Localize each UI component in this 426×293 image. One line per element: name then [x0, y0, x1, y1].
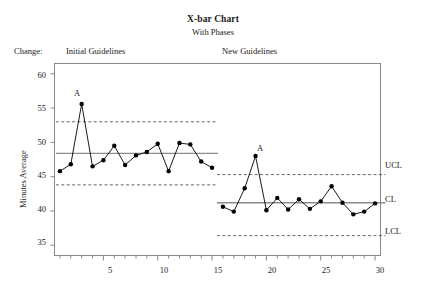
xbar-control-chart: X-bar Chart With Phases Change: Initial … [0, 0, 426, 293]
data-point-phase-1-3 [79, 102, 83, 106]
data-point-phase-2-27 [340, 201, 344, 205]
data-point-phase-1-15 [210, 166, 214, 170]
plot-area [0, 0, 426, 293]
data-point-phase-2-25 [319, 199, 323, 203]
data-point-phase-2-18 [242, 186, 246, 190]
data-point-phase-1-1 [58, 169, 62, 173]
data-point-phase-1-10 [156, 142, 160, 146]
data-point-phase-2-20 [264, 208, 268, 212]
data-point-phase-1-4 [90, 164, 94, 168]
data-point-phase-1-2 [69, 162, 73, 166]
data-point-phase-2-21 [275, 196, 279, 200]
series-line-phase-1 [60, 104, 212, 171]
data-point-phase-1-6 [112, 144, 116, 148]
control-limit-lines [56, 122, 386, 236]
data-point-phase-2-26 [329, 184, 333, 188]
data-point-phase-2-30 [373, 201, 377, 205]
data-series [58, 102, 378, 217]
data-point-phase-1-5 [101, 158, 105, 162]
data-point-phase-1-11 [166, 169, 170, 173]
data-point-phase-2-22 [286, 207, 290, 211]
data-point-phase-2-29 [362, 209, 366, 213]
data-point-phase-1-14 [199, 159, 203, 163]
data-point-phase-2-23 [297, 197, 301, 201]
data-point-phase-2-17 [232, 209, 236, 213]
data-point-phase-2-16 [221, 205, 225, 209]
data-point-phase-2-28 [351, 212, 355, 216]
data-point-phase-1-12 [177, 141, 181, 145]
data-point-phase-1-8 [134, 153, 138, 157]
data-point-phase-2-24 [308, 207, 312, 211]
data-point-phase-1-9 [145, 150, 149, 154]
data-point-phase-2-19 [253, 154, 257, 158]
data-point-phase-1-13 [188, 142, 192, 146]
data-point-phase-1-7 [123, 163, 127, 167]
series-line-phase-2 [223, 156, 375, 214]
